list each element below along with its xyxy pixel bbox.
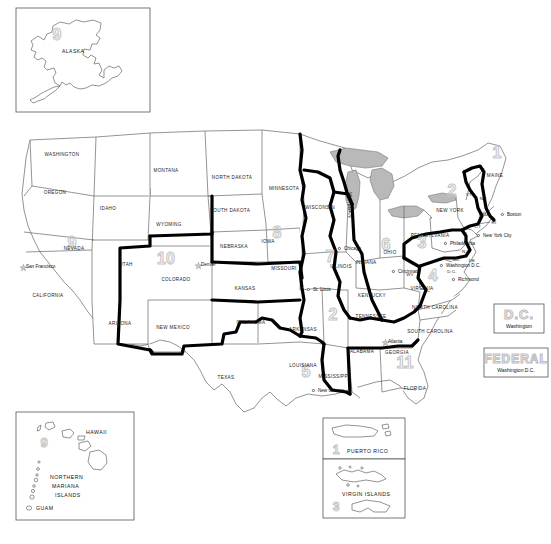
state-label-wyoming: WYOMING bbox=[156, 222, 181, 227]
state-label-georgia: GEORGIA bbox=[385, 350, 409, 355]
state-label-north-dakota: NORTH DAKOTA bbox=[212, 175, 253, 180]
legend-federal-box: FEDERAL Washington D.C. bbox=[484, 348, 548, 377]
state-label-missouri: MISSOURI bbox=[271, 266, 297, 271]
city-dot-marker bbox=[440, 264, 442, 266]
state-label-virginia: VIRGINIA bbox=[411, 286, 435, 291]
state-label-arizona: ARIZONA bbox=[109, 321, 132, 326]
state-abbrev-nj: NJ bbox=[462, 249, 468, 254]
state-label-kansas: KANSAS bbox=[235, 286, 256, 291]
state-label-kentucky: KENTUCKY bbox=[358, 293, 386, 298]
state-label-maine: MAINE bbox=[487, 173, 503, 178]
city-label: San Francisco bbox=[26, 264, 56, 269]
city-dot-marker bbox=[338, 247, 340, 249]
city-label: Washington D.C. bbox=[446, 263, 481, 268]
pacific-inset-frame bbox=[16, 412, 134, 520]
puerto-rico-circuit-number: 1 bbox=[333, 443, 340, 457]
city-dot-marker bbox=[307, 288, 309, 290]
state-label-pennsylvania: PENNSYLVANIA bbox=[411, 233, 450, 238]
circuit-number-2: 2 bbox=[329, 306, 338, 323]
city-label: Richmond bbox=[458, 277, 479, 282]
state-label-idaho: IDAHO bbox=[100, 206, 116, 211]
circuit-number-2: 2 bbox=[448, 182, 457, 199]
dc-legend-title: D.C. bbox=[504, 307, 534, 322]
state-label-south-carolina: SOUTH CAROLINA bbox=[407, 329, 453, 334]
circuit-number-4: 4 bbox=[429, 267, 438, 284]
city-label: New York City bbox=[483, 233, 512, 238]
inset-puerto-rico: 1 PUERTO RICO bbox=[323, 418, 405, 459]
puerto-rico-label: PUERTO RICO bbox=[347, 448, 388, 454]
map-canvas: .stateline{fill:#ffffff;stroke:#666;stro… bbox=[0, 0, 551, 544]
federal-legend-subtitle: Washington D.C. bbox=[497, 367, 535, 373]
state-label-florida: FLORIDA bbox=[404, 386, 427, 391]
alaska-circuit-number: 9 bbox=[53, 26, 62, 43]
city-dot-marker bbox=[392, 270, 394, 272]
city-label: St. Louis bbox=[313, 287, 332, 292]
state-label-nebraska: NEBRASKA bbox=[220, 244, 248, 249]
state-label-minnesota: MINNESOTA bbox=[269, 186, 300, 191]
alaska-state-label: ALASKA bbox=[62, 48, 85, 54]
guam-label: GUAM bbox=[36, 505, 54, 511]
state-label-washington: WASHINGTON bbox=[45, 152, 80, 157]
hawaii-circuit-number: 9 bbox=[40, 435, 47, 450]
city-dot-marker bbox=[444, 242, 446, 244]
city-label: Denver bbox=[201, 262, 216, 267]
state-label-north-carolina: NORTH CAROLINA bbox=[412, 305, 458, 310]
state-abbrev-dc: D.C. bbox=[447, 269, 457, 274]
state-label-indiana: INDIANA bbox=[355, 260, 377, 265]
state-label-south-dakota: SOUTH DAKOTA bbox=[210, 208, 251, 213]
federal-legend-title: FEDERAL bbox=[484, 352, 548, 366]
circuit-number-1: 1 bbox=[493, 144, 502, 161]
city-dot-marker bbox=[312, 389, 314, 391]
mariana-label-line1: NORTHERN bbox=[50, 474, 83, 480]
circuit-number-11: 11 bbox=[397, 354, 414, 371]
inset-alaska: 9 ALASKA bbox=[16, 8, 150, 112]
state-label-montana: MONTANA bbox=[153, 168, 179, 173]
state-label-new-york: NEW YORK bbox=[436, 208, 464, 213]
virgin-islands-label: VIRGIN ISLANDS bbox=[342, 491, 391, 497]
culebra-shape bbox=[385, 431, 391, 436]
guam-shape bbox=[26, 506, 31, 510]
mariana-label-line2: MARIANA bbox=[52, 483, 79, 489]
state-label-louisiana: LOUISIANA bbox=[289, 363, 317, 368]
city-dot-marker bbox=[477, 234, 479, 236]
state-label-oregon: OREGON bbox=[44, 190, 67, 195]
state-label-new-mexico: NEW MEXICO bbox=[156, 325, 190, 330]
virgin-islands-circuit-number: 3 bbox=[333, 500, 340, 514]
city-label: Philadelphia bbox=[450, 241, 475, 246]
state-abbrev-ri: RI bbox=[492, 220, 497, 225]
mariana-label-line3: ISLANDS bbox=[55, 492, 81, 498]
city-dot-marker bbox=[501, 213, 503, 215]
city-label: Cincinnati bbox=[398, 269, 418, 274]
dc-legend-subtitle: Washington bbox=[506, 323, 532, 329]
state-label-nevada: NEVADA bbox=[64, 246, 85, 251]
state-label-iowa: IOWA bbox=[261, 239, 275, 244]
judicial-circuits-map: .stateline{fill:#ffffff;stroke:#666;stro… bbox=[0, 0, 551, 544]
state-label-illinois: ILLINOIS bbox=[330, 264, 352, 269]
state-label-arkansas: ARKANSAS bbox=[289, 327, 317, 332]
circuit-number-10: 10 bbox=[157, 250, 175, 267]
city-label: Atlanta bbox=[388, 339, 403, 344]
city-dot-marker bbox=[452, 278, 454, 280]
inset-virgin-islands: VIRGIN ISLANDS 3 bbox=[323, 459, 405, 518]
state-abbrev-ct: CT bbox=[475, 224, 481, 229]
state-label-ohio: OHIO bbox=[383, 250, 396, 255]
city-label: Boston bbox=[507, 212, 522, 217]
state-abbrev-ma: MA bbox=[483, 212, 490, 217]
inset-pacific-islands: HAWAII 9 NORTHERN MARIANA ISLANDS GUAM bbox=[16, 412, 134, 520]
state-label-michigan: MICHIGAN bbox=[347, 192, 352, 218]
city-new-york-city: New York City bbox=[477, 233, 512, 238]
legend-dc-box: D.C. Washington bbox=[494, 304, 544, 333]
state-abbrev-md: MD bbox=[452, 257, 459, 262]
city-label: New Orleans bbox=[318, 388, 345, 393]
state-label-mississippi: MISSISSIPPI bbox=[318, 374, 349, 379]
state-label-tennessee: TENNESSEE bbox=[356, 314, 387, 319]
state-label-oklahoma: OKLAHOMA bbox=[237, 320, 266, 325]
city-label: Chicago bbox=[344, 246, 361, 251]
state-label-colorado: COLORADO bbox=[161, 277, 190, 282]
state-label-wisconsin: WISCONSIN bbox=[305, 205, 335, 210]
state-label-california: CALIFORNIA bbox=[32, 293, 64, 298]
hawaii-label: HAWAII bbox=[86, 429, 107, 435]
city-new-orleans: New Orleans bbox=[312, 388, 345, 393]
state-label-utah: UTAH bbox=[119, 262, 133, 267]
state-label-alabama: ALABAMA bbox=[350, 349, 375, 354]
